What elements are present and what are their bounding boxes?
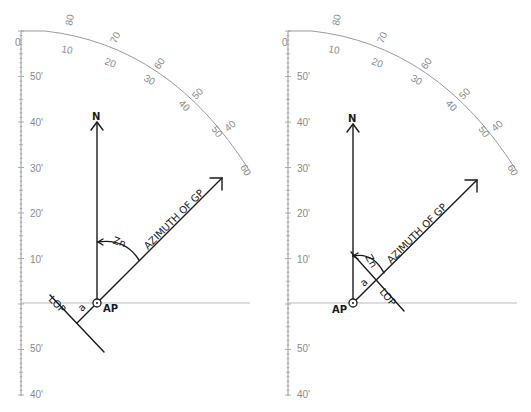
arc-label-outer: 70 xyxy=(375,30,390,45)
scale-label: 20' xyxy=(30,208,43,219)
azimuth-label: AZIMUTH OF GP xyxy=(142,187,206,251)
scale-label: 40' xyxy=(30,117,43,128)
compass-arc: 80 70 60 50 40 10 20 30 40 50 60 xyxy=(21,13,254,178)
compass-arc: 80 70 60 50 40 10 20 30 40 50 60 xyxy=(288,13,521,178)
lop-label: LOP xyxy=(377,286,398,308)
azimuth-label: AZIMUTH OF GP xyxy=(385,201,449,265)
scale-label: 50' xyxy=(297,343,310,354)
zn-label: Zn xyxy=(363,253,379,270)
scale-label: 50' xyxy=(30,71,43,82)
scale-label: 20' xyxy=(297,208,310,219)
north-arrow: N xyxy=(91,111,103,300)
arc-label-outer: 60 xyxy=(419,55,435,71)
arc-label-outer: 50 xyxy=(457,85,473,101)
ap-label: AP xyxy=(103,303,118,314)
zn-angle: Zn xyxy=(98,235,139,260)
zn-angle: Zn xyxy=(353,253,384,274)
arc-label-outer: 50 xyxy=(190,85,206,101)
lop-label: LOP xyxy=(47,294,68,315)
azimuth-line: AZIMUTH OF GP xyxy=(355,180,477,301)
arc-label-inner: 60 xyxy=(238,163,253,179)
scale-label: 10' xyxy=(297,254,310,265)
north-label: N xyxy=(92,111,100,122)
arc-label-inner: 20 xyxy=(370,56,385,70)
ap-label: AP xyxy=(332,304,347,315)
arc-label-inner: 10 xyxy=(328,43,341,56)
scale-label: 30' xyxy=(30,163,43,174)
north-arrow: N xyxy=(347,113,359,300)
north-label: N xyxy=(348,113,356,124)
arc-label-outer: 60 xyxy=(152,55,168,71)
scale-label: 40' xyxy=(30,389,43,400)
arc-label-inner: 30 xyxy=(142,72,158,87)
arc-label-inner: 30 xyxy=(409,72,425,87)
intercept-label: a xyxy=(358,276,370,288)
figure-caption-cropped xyxy=(100,404,430,412)
scale-label: 10' xyxy=(30,254,43,265)
arc-label-outer: 80 xyxy=(330,13,343,26)
arc-label-inner: 40 xyxy=(444,98,460,114)
scale-label: 50' xyxy=(30,343,43,354)
arc-label-inner: 60 xyxy=(505,163,520,179)
plotting-diagram: 0 50' 40' 30' 20' 10' 50' 40' 80 70 60 5… xyxy=(0,0,531,412)
scale-label: 40' xyxy=(297,389,310,400)
scale-label: 30' xyxy=(297,163,310,174)
scale-label-0: 0 xyxy=(282,37,288,48)
latitude-scale: 0 50' 40' 30' 20' 10' 50' 40' xyxy=(282,31,310,400)
latitude-scale: 0 50' 40' 30' 20' 10' 50' 40' xyxy=(15,31,43,400)
arc-label-inner: 20 xyxy=(103,56,118,70)
scale-label: 40' xyxy=(297,117,310,128)
scale-label-0: 0 xyxy=(15,37,21,48)
zn-label: Zn xyxy=(111,235,127,250)
arc-label-inner: 40 xyxy=(177,98,193,114)
left-panel: 0 50' 40' 30' 20' 10' 50' 40' 80 70 60 5… xyxy=(15,13,254,400)
scale-label: 50' xyxy=(297,71,310,82)
arc-label-inner: 10 xyxy=(61,43,74,56)
arc-label-outer: 80 xyxy=(63,13,76,26)
arc-label-outer: 70 xyxy=(108,30,123,45)
right-panel: 0 50' 40' 30' 20' 10' 50' 40' 80 70 60 5… xyxy=(282,13,521,400)
